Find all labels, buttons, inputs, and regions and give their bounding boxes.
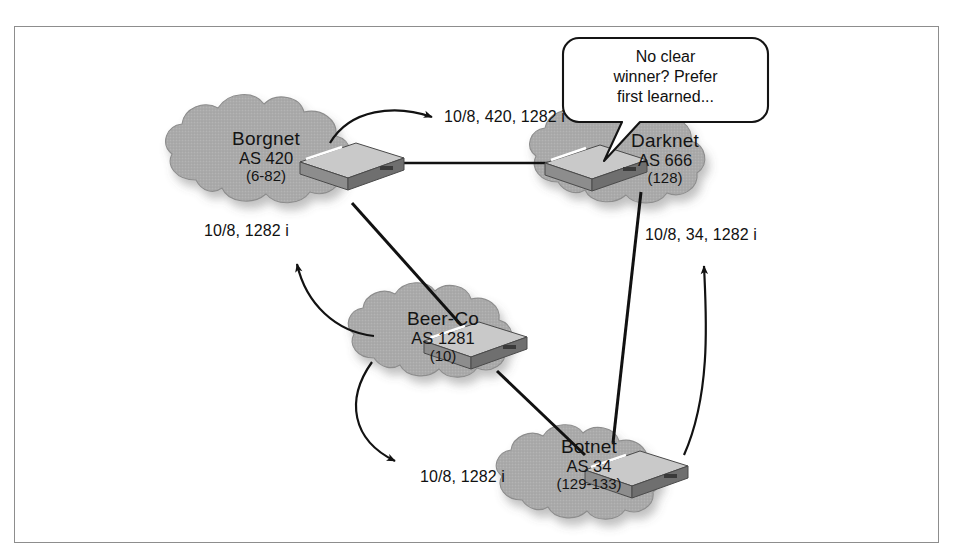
callout-line-3: first learned... <box>563 87 768 107</box>
link-darknet-botnet <box>613 192 641 443</box>
advertisement-label-borgnet-to-darknet: 10/8, 420, 1282 i <box>444 108 565 126</box>
callout-text-darknet: No clear winner? Prefer first learned... <box>563 47 768 106</box>
advertisement-arrow-borgnet-to-darknet <box>330 110 432 143</box>
callout-line-1: No clear <box>563 47 768 67</box>
cloud-shape-borgnet <box>166 95 351 203</box>
callout-line-2: winner? Prefer <box>563 67 768 87</box>
advertisement-label-beerco-to-botnet: 10/8, 1282 i <box>420 468 505 486</box>
advertisement-arrow-botnet-to-darknet <box>684 266 706 455</box>
network-diagram-figure: Borgnet AS 420 (6-82) Darknet AS 666 (12… <box>0 0 958 559</box>
advertisement-label-beerco-to-borgnet: 10/8, 1282 i <box>204 222 289 240</box>
advertisement-label-botnet-to-darknet: 10/8, 34, 1282 i <box>645 226 757 244</box>
advertisement-arrow-beerco-to-botnet <box>356 362 395 461</box>
